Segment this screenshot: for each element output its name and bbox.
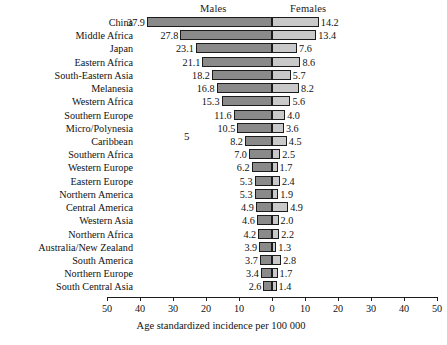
x-axis-tick [437, 297, 438, 301]
x-axis-tick-label: 30 [356, 303, 386, 314]
category-label: Western Africa [0, 95, 133, 108]
chart-row: Southern Africa7.02.5 [0, 148, 442, 161]
male-value-label: 21.1 [160, 56, 200, 69]
x-axis-tick [140, 297, 141, 301]
female-value-label: 1.7 [280, 161, 293, 174]
category-label: Northern America [0, 188, 133, 201]
female-value-label: 8.6 [302, 56, 315, 69]
chart-row: Northern America5.31.9 [0, 188, 442, 201]
male-value-label: 15.3 [180, 95, 220, 108]
category-label: Japan [0, 42, 133, 55]
female-value-label: 2.4 [282, 175, 295, 188]
category-label: Melanesia [0, 82, 133, 95]
female-value-label: 3.6 [286, 122, 299, 135]
category-label: Southern Africa [0, 148, 133, 161]
male-value-label: 6.2 [210, 161, 250, 174]
female-bar [272, 123, 284, 133]
x-axis-tick-label: 50 [422, 303, 447, 314]
chart-row: Eastern Africa21.18.6 [0, 56, 442, 69]
female-value-label: 4.9 [290, 201, 303, 214]
female-bar [272, 189, 278, 199]
category-label: Eastern Europe [0, 175, 133, 188]
category-label: Australia/New Zealand [0, 241, 133, 254]
category-label: Western Asia [0, 214, 133, 227]
x-axis-tick [404, 297, 405, 301]
male-value-label: 23.1 [154, 42, 194, 55]
female-bar [272, 57, 300, 67]
female-value-label: 2.8 [283, 254, 296, 267]
female-bar [272, 202, 288, 212]
chart-row: South America3.72.8 [0, 254, 442, 267]
chart-row: China37.914.2 [0, 16, 442, 29]
male-value-label: 37.9 [105, 16, 145, 29]
male-value-label: 18.2 [170, 69, 210, 82]
male-value-label: 3.4 [219, 267, 259, 280]
male-bar [222, 96, 272, 106]
male-bar [255, 176, 272, 186]
male-bar [212, 70, 272, 80]
x-axis-tick-label: 40 [389, 303, 419, 314]
male-bar [252, 162, 272, 172]
male-bar [260, 255, 272, 265]
x-axis-tick-label: 50 [92, 303, 122, 314]
x-axis-tick [107, 297, 108, 301]
female-bar [272, 281, 277, 291]
male-value-label: 5.3 [213, 188, 253, 201]
x-axis-tick [272, 297, 273, 301]
female-value-label: 1.9 [280, 188, 293, 201]
females-column-header: Females [290, 3, 326, 14]
female-bar [272, 268, 278, 278]
chart-row: Australia/New Zealand3.91.3 [0, 241, 442, 254]
chart-row: Central America4.94.9 [0, 201, 442, 214]
female-bar [272, 229, 279, 239]
male-bar [255, 189, 272, 199]
male-value-label: 27.8 [138, 29, 178, 42]
category-label: Central America [0, 201, 133, 214]
chart-row: Northern Europe3.41.7 [0, 267, 442, 280]
female-value-label: 1.4 [279, 280, 292, 293]
category-label: Northern Europe [0, 267, 133, 280]
x-axis-tick [173, 297, 174, 301]
female-bar [272, 43, 297, 53]
x-axis-tick-label: 40 [125, 303, 155, 314]
chart-row: Caribbean8.24.5 [0, 135, 442, 148]
male-bar [259, 242, 272, 252]
female-bar [272, 17, 319, 27]
female-bar [272, 242, 276, 252]
female-value-label: 13.4 [318, 29, 336, 42]
male-bar [249, 149, 272, 159]
female-value-label: 8.2 [301, 82, 314, 95]
female-bar [272, 96, 290, 106]
x-axis-tick-label: 30 [158, 303, 188, 314]
female-bar [272, 110, 285, 120]
female-bar [272, 149, 280, 159]
male-value-label: 2.6 [221, 280, 261, 293]
chart-row: Middle Africa27.813.4 [0, 29, 442, 42]
chart-row: Western Europe6.21.7 [0, 161, 442, 174]
female-bar [272, 215, 279, 225]
female-bar [272, 70, 291, 80]
male-bar [258, 229, 272, 239]
male-bar [237, 123, 272, 133]
category-label: Micro/Polynesia [0, 122, 133, 135]
chart-row: Melanesia16.88.2 [0, 82, 442, 95]
category-label: Western Europe [0, 161, 133, 174]
x-axis-tick [371, 297, 372, 301]
stray-annotation-mark: 5 [184, 130, 190, 142]
category-label: South-Eastern Asia [0, 69, 133, 82]
male-bar [261, 268, 272, 278]
category-label: Middle Africa [0, 29, 133, 42]
category-label: Eastern Africa [0, 56, 133, 69]
female-bar [272, 162, 278, 172]
category-label: Caribbean [0, 135, 133, 148]
chart-row: Eastern Europe5.32.4 [0, 175, 442, 188]
x-axis-tick-label: 20 [191, 303, 221, 314]
male-value-label: 4.2 [216, 228, 256, 241]
chart-row: South Central Asia2.61.4 [0, 280, 442, 293]
male-value-label: 3.7 [218, 254, 258, 267]
female-value-label: 14.2 [321, 16, 339, 29]
male-bar [257, 215, 272, 225]
category-label: South America [0, 254, 133, 267]
chart-row: Western Asia4.62.0 [0, 214, 442, 227]
